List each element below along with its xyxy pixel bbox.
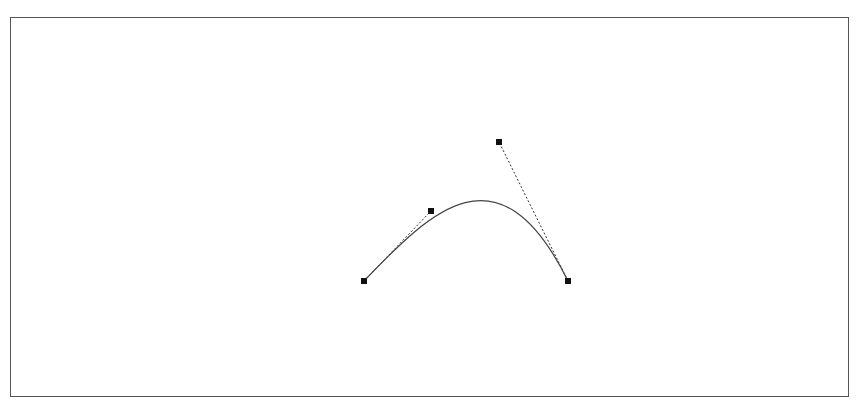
control-point-start-anchor[interactable] <box>361 278 367 284</box>
control-point-control-handle-2[interactable] <box>496 139 502 145</box>
bezier-canvas[interactable] <box>0 0 860 413</box>
handle-line-end <box>499 142 568 281</box>
control-point-end-anchor[interactable] <box>565 278 571 284</box>
control-point-control-handle-1[interactable] <box>428 208 434 214</box>
bezier-curve <box>364 201 568 281</box>
